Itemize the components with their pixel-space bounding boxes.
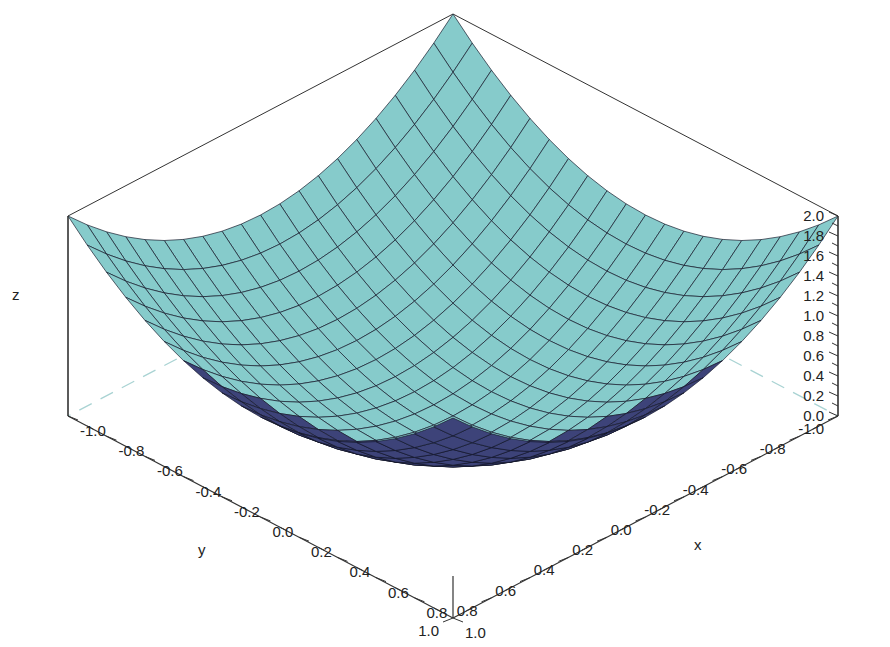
y-tick-label: -0.4 bbox=[683, 481, 709, 498]
x-tick-label: 0.6 bbox=[388, 584, 409, 601]
z-tick-label: 2.0 bbox=[803, 207, 824, 224]
x-tick-label: -1.0 bbox=[80, 422, 106, 439]
y-tick-label: 0.8 bbox=[457, 602, 478, 619]
surface-plot: 0.00.20.40.60.81.01.21.41.61.82.0-1.0-0.… bbox=[0, 0, 890, 647]
y-tick-label: -1.0 bbox=[798, 420, 824, 437]
z-tick-label: 1.8 bbox=[803, 227, 824, 244]
y-tick-label: 0.2 bbox=[572, 541, 593, 558]
y-axis-label: y bbox=[198, 541, 206, 558]
y-tick-label: -0.6 bbox=[721, 460, 747, 477]
z-tick-label: 0.2 bbox=[803, 387, 824, 404]
x-tick-label: 0.0 bbox=[273, 523, 294, 540]
z-tick-label: 1.6 bbox=[803, 247, 824, 264]
z-tick-label: 1.4 bbox=[803, 267, 824, 284]
y-tick-label: 0.0 bbox=[611, 521, 632, 538]
x-tick-label: 0.4 bbox=[350, 563, 371, 580]
y-tick-label: 1.0 bbox=[418, 622, 439, 639]
y-tick-label: -0.8 bbox=[760, 440, 786, 457]
x-tick-label: -0.4 bbox=[196, 483, 222, 500]
y-tick-label: 0.6 bbox=[495, 582, 516, 599]
x-tick-label: 0.2 bbox=[311, 543, 332, 560]
paraboloid-surface bbox=[68, 14, 838, 467]
z-tick-label: 0.8 bbox=[803, 327, 824, 344]
x-tick-label: 1.0 bbox=[465, 624, 486, 641]
z-tick-label: 0.4 bbox=[803, 367, 824, 384]
x-tick-label: -0.2 bbox=[234, 503, 260, 520]
x-tick-label: 0.8 bbox=[427, 604, 448, 621]
z-tick-label: 0.6 bbox=[803, 347, 824, 364]
x-tick-label: -0.8 bbox=[119, 442, 145, 459]
y-tick-label: -0.2 bbox=[644, 501, 670, 518]
x-tick-label: -0.6 bbox=[157, 462, 183, 479]
z-tick-label: 1.2 bbox=[803, 287, 824, 304]
x-axis-label: x bbox=[694, 536, 702, 553]
z-axis-label: z bbox=[12, 286, 20, 303]
y-tick-label: 0.4 bbox=[534, 561, 555, 578]
z-tick-label: 1.0 bbox=[803, 307, 824, 324]
